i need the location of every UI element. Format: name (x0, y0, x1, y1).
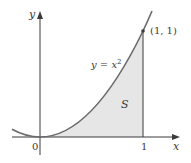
y-axis-label: y (28, 8, 36, 21)
equation-text: y = x (90, 59, 117, 70)
curve-equation-label: y = x2 (90, 58, 122, 70)
region-label: S (121, 98, 129, 111)
x-axis-label: x (173, 140, 180, 153)
point-label: (1, 1) (150, 25, 177, 36)
equation-exponent: 2 (117, 58, 121, 66)
point-marker-icon (141, 29, 145, 33)
parabola-diagram: y x 0 1 (1, 1) y = x2 S (0, 0, 191, 163)
shaded-region-s (40, 31, 143, 137)
y-axis-arrow-icon (37, 11, 43, 19)
x-tick-label-1: 1 (141, 141, 147, 152)
origin-label: 0 (32, 141, 38, 152)
